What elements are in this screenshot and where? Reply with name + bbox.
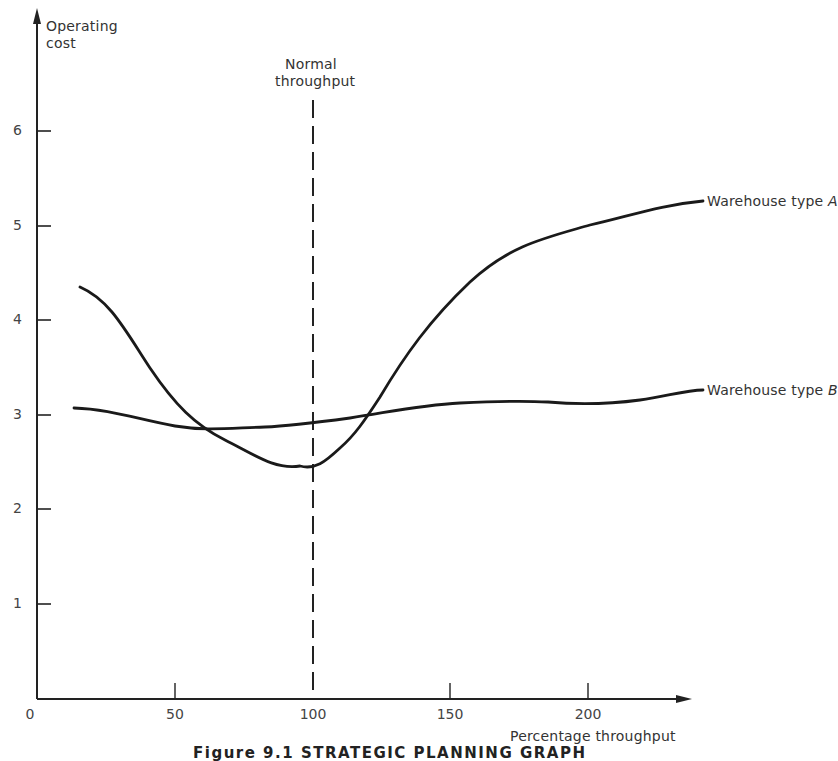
y-tick-label: 3 — [8, 406, 22, 422]
y-tick-label: 6 — [8, 122, 22, 138]
x-tick-label: 150 — [430, 706, 470, 722]
legend-warehouse-a-text: Warehouse type — [707, 193, 828, 209]
x-tick-label: 0 — [10, 706, 50, 722]
x-tick-label: 200 — [568, 706, 608, 722]
normal-label-line2: throughput — [275, 73, 347, 90]
series-warehouse-b — [74, 390, 703, 429]
x-axis-label: Percentage throughput — [510, 728, 676, 745]
y-axis-label: Operating cost — [46, 18, 118, 52]
y-axis-label-line2: cost — [46, 35, 118, 52]
x-axis-arrow-icon — [676, 695, 692, 703]
y-axis-label-line1: Operating — [46, 18, 118, 35]
y-axis-arrow-icon — [33, 8, 41, 24]
y-ticks — [37, 131, 51, 604]
x-tick-label: 50 — [155, 706, 195, 722]
y-tick-label: 5 — [8, 217, 22, 233]
legend-warehouse-a-letter: A — [828, 193, 838, 209]
normal-throughput-label: Normal throughput — [275, 56, 347, 90]
legend-warehouse-b: Warehouse type B — [707, 382, 838, 399]
legend-warehouse-b-text: Warehouse type — [707, 382, 828, 398]
figure-caption: Figure 9.1 STRATEGIC PLANNING GRAPH — [193, 744, 586, 761]
y-tick-label: 1 — [8, 595, 22, 611]
legend-warehouse-b-letter: B — [828, 382, 838, 398]
y-tick-label: 4 — [8, 311, 22, 327]
normal-label-line1: Normal — [275, 56, 347, 73]
y-tick-label: 2 — [8, 500, 22, 516]
x-ticks — [175, 683, 588, 699]
x-tick-label: 100 — [293, 706, 333, 722]
legend-warehouse-a: Warehouse type A — [707, 193, 838, 210]
